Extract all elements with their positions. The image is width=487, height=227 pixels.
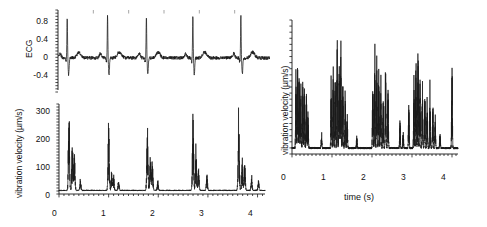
- vibration-right-x-axis-title: time (s): [344, 192, 374, 202]
- vibration-left-plot-area: [55, 102, 267, 206]
- vibration-left-y-axis-label: vibration velocity (µm/s): [14, 109, 24, 198]
- vibration-left-panel: vibration velocity (µm/s) 300 200 100 0 …: [0, 98, 270, 227]
- ecg-plot-area: [54, 8, 270, 94]
- vibration-left-xtick-2: 2: [150, 208, 155, 218]
- vibration-left-xtick-4: 4: [248, 208, 253, 218]
- ecg-ytick-3: -0.4: [24, 70, 48, 80]
- vibration-left-ytick-3: 0: [20, 190, 50, 200]
- vibration-left-ytick-0: 300: [20, 106, 50, 116]
- ecg-panel: ECG 0.8 0.4 0 -0.4: [0, 0, 270, 100]
- vibration-right-xtick-1: 1: [321, 172, 326, 182]
- vibration-right-plot-area: [288, 18, 460, 168]
- ecg-ytick-0: 0.8: [24, 16, 48, 26]
- vibration-left-xtick-1: 1: [101, 208, 106, 218]
- vibration-right-xtick-3: 3: [401, 172, 406, 182]
- ecg-ytick-2: 0: [24, 52, 48, 62]
- vibration-right-panel: vibration velocity (µm/s) 0 1 2 3 4 time…: [266, 0, 487, 227]
- vibration-right-ytick-0: 0: [281, 172, 286, 182]
- vibration-right-xtick-2: 2: [361, 172, 366, 182]
- vibration-right-xtick-4: 4: [441, 172, 446, 182]
- ecg-ytick-1: 0.4: [24, 34, 48, 44]
- vibration-left-xtick-0: 0: [52, 208, 57, 218]
- vibration-left-ytick-2: 100: [20, 162, 50, 172]
- vibration-left-xtick-3: 3: [199, 208, 204, 218]
- figure-root: ECG 0.8 0.4 0 -0.4 vibration velocity (µ…: [0, 0, 487, 227]
- vibration-left-ytick-1: 200: [20, 134, 50, 144]
